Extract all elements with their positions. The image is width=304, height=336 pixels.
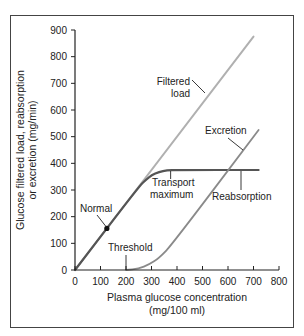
x-tick-label: 800: [271, 276, 288, 287]
x-tick-label: 500: [194, 276, 211, 287]
y-axis-title-line2: or excretion (mg/min): [26, 100, 38, 199]
x-tick-label: 300: [143, 276, 160, 287]
x-tick-label: 200: [118, 276, 135, 287]
x-tick-label: 0: [72, 276, 78, 287]
y-tick-label: 300: [50, 185, 67, 196]
leader-filtered-load: [192, 80, 205, 93]
y-tick-label: 700: [50, 78, 67, 89]
label-filtered-load: Filtered: [157, 76, 190, 87]
label-filtered-load-line2: load: [171, 88, 190, 99]
x-axis-units: (mg/100 ml): [149, 304, 205, 316]
x-tick-label: 600: [220, 276, 237, 287]
chart: 0100200300400500600700800010020030040050…: [0, 0, 304, 336]
y-tick-label: 600: [50, 105, 67, 116]
label-excretion: Excretion: [205, 125, 247, 136]
y-tick-label: 0: [61, 265, 67, 276]
label-transport-maximum-line2: maximum: [150, 189, 193, 200]
x-tick-label: 400: [169, 276, 186, 287]
y-tick-label: 500: [50, 131, 67, 142]
normal-point: [104, 226, 109, 231]
y-tick-label: 400: [50, 158, 67, 169]
y-axis-title: Glucose filtered load, reabsorption: [14, 70, 26, 230]
leader-excretion: [228, 138, 243, 150]
label-reabsorption: Reabsorption: [212, 191, 271, 202]
x-tick-label: 700: [245, 276, 262, 287]
y-tick-label: 200: [50, 211, 67, 222]
x-tick-label: 100: [92, 276, 109, 287]
leader-normal: [97, 215, 106, 226]
label-transport-maximum: Transport: [152, 177, 195, 188]
y-tick-label: 800: [50, 51, 67, 62]
y-tick-label: 900: [50, 25, 67, 36]
x-axis-title: Plasma glucose concentration: [107, 291, 247, 303]
label-threshold: Threshold: [108, 242, 152, 253]
label-normal: Normal: [80, 203, 112, 214]
y-tick-label: 100: [50, 238, 67, 249]
